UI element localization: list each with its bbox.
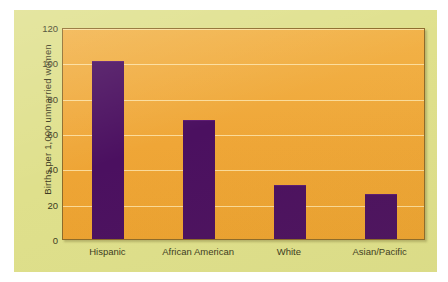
bar: [274, 185, 306, 239]
y-axis-tick-label: 100: [28, 58, 58, 69]
gridline: [63, 29, 424, 30]
y-axis-tick-label: 40: [28, 164, 58, 175]
x-axis-tick-label: Hispanic: [89, 246, 125, 257]
bar: [92, 61, 124, 239]
bar: [365, 194, 397, 239]
y-axis-tick-label: 20: [28, 199, 58, 210]
x-axis-tick-labels: HispanicAfrican AmericanWhiteAsian/Pacif…: [62, 246, 425, 262]
y-axis-tick-labels: 020406080100120: [22, 28, 58, 240]
x-axis-tick-label: White: [277, 246, 301, 257]
plot-area: [62, 28, 425, 240]
y-axis-tick-label: 0: [28, 235, 58, 246]
figure-card: Births per 1,000 unmarried women 0204060…: [14, 10, 437, 272]
y-axis-tick-label: 60: [28, 129, 58, 140]
x-axis-tick-label: African American: [162, 246, 234, 257]
y-axis-tick-label: 120: [28, 23, 58, 34]
bar: [183, 120, 215, 239]
x-axis-tick-label: Asian/Pacific: [352, 246, 406, 257]
y-axis-tick-label: 80: [28, 93, 58, 104]
